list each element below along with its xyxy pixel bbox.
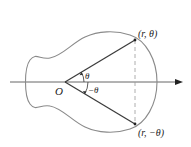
angle-label-upper: θ: [85, 72, 89, 81]
point-lower-dot: [134, 123, 137, 126]
polar-symmetry-diagram: O θ −θ (r, θ) (r, −θ): [0, 0, 191, 147]
point-upper-dot: [134, 39, 137, 42]
point-lower-label: (r, −θ): [138, 128, 164, 138]
point-upper-label: (r, θ): [138, 29, 157, 39]
diagram-svg: [0, 0, 191, 147]
ray-upper: [65, 40, 135, 82]
ray-lower: [65, 82, 135, 124]
origin-label: O: [55, 86, 63, 97]
axis-arrowhead-icon: [175, 79, 183, 85]
angle-label-lower: −θ: [88, 86, 99, 95]
